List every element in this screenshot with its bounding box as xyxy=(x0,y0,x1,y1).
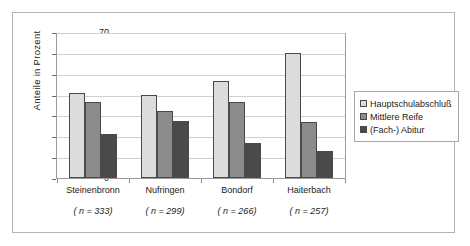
legend-item: Mittlere Reife xyxy=(360,110,452,123)
bar xyxy=(245,143,261,178)
x-axis-tick-mark xyxy=(201,179,202,183)
chart-figure-frame: Anteile in Prozent 706050403020100 Stein… xyxy=(12,12,455,233)
legend-item: Hauptschulabschluß xyxy=(360,97,452,110)
bar xyxy=(213,81,229,178)
bar xyxy=(85,102,101,178)
grouped-bar-chart: Anteile in Prozent 706050403020100 Stein… xyxy=(13,13,456,234)
x-axis-tick-mark xyxy=(345,179,346,183)
legend-item: (Fach-) Abitur xyxy=(360,123,452,136)
bar-group xyxy=(129,34,201,178)
y-axis-title: Anteile in Prozent xyxy=(31,16,42,126)
legend-label: Mittlere Reife xyxy=(370,112,423,122)
x-axis-category-label: Haiterbach xyxy=(249,185,369,196)
legend-label: Hauptschulabschluß xyxy=(370,99,452,109)
bar-group xyxy=(201,34,273,178)
bar xyxy=(285,53,301,178)
bar xyxy=(229,102,245,178)
x-axis-tick-mark xyxy=(273,179,274,183)
bar xyxy=(69,93,85,178)
chart-legend: HauptschulabschlußMittlere Reife(Fach-) … xyxy=(354,91,459,142)
legend-swatch xyxy=(360,113,367,120)
bar-group xyxy=(57,34,129,178)
bar-group xyxy=(273,34,345,178)
legend-swatch xyxy=(360,100,367,107)
bar xyxy=(157,111,173,178)
bar xyxy=(301,122,317,178)
bar xyxy=(101,134,117,178)
bar xyxy=(173,121,189,178)
x-axis-tick-mark xyxy=(57,179,58,183)
bars-layer xyxy=(57,34,345,178)
legend-swatch xyxy=(360,126,367,133)
x-axis-sample-size-label: ( n = 257) xyxy=(249,206,369,217)
bar xyxy=(141,95,157,178)
x-axis-tick-mark xyxy=(129,179,130,183)
bar xyxy=(317,151,333,178)
legend-label: (Fach-) Abitur xyxy=(370,125,425,135)
y-axis-tick-mark xyxy=(52,179,56,180)
